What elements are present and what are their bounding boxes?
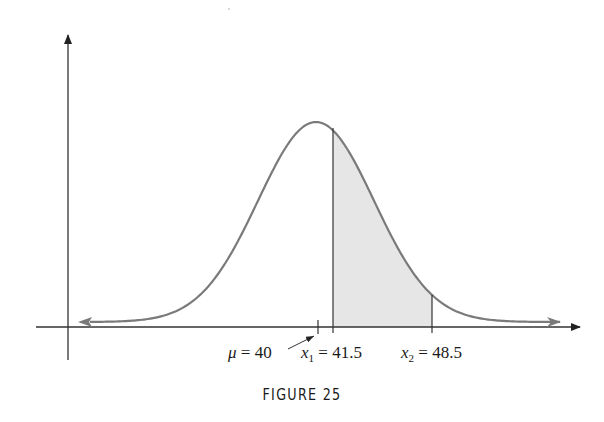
x2-symbol: x xyxy=(401,343,409,362)
mu-label: μ = 40 xyxy=(228,343,272,363)
normal-curve xyxy=(90,122,560,322)
figure-caption: FIGURE 25 xyxy=(45,386,558,404)
x1-value: = 41.5 xyxy=(314,343,362,362)
mu-value: = 40 xyxy=(237,343,272,362)
shaded-region xyxy=(333,130,432,327)
x1-symbol: x xyxy=(301,343,309,362)
x1-label: x1 = 41.5 xyxy=(301,343,362,364)
x2-value: = 48.5 xyxy=(414,343,462,362)
x2-label: x2 = 48.5 xyxy=(401,343,462,364)
curve-left-arrowhead xyxy=(78,317,92,327)
mu-symbol: μ xyxy=(228,343,237,362)
